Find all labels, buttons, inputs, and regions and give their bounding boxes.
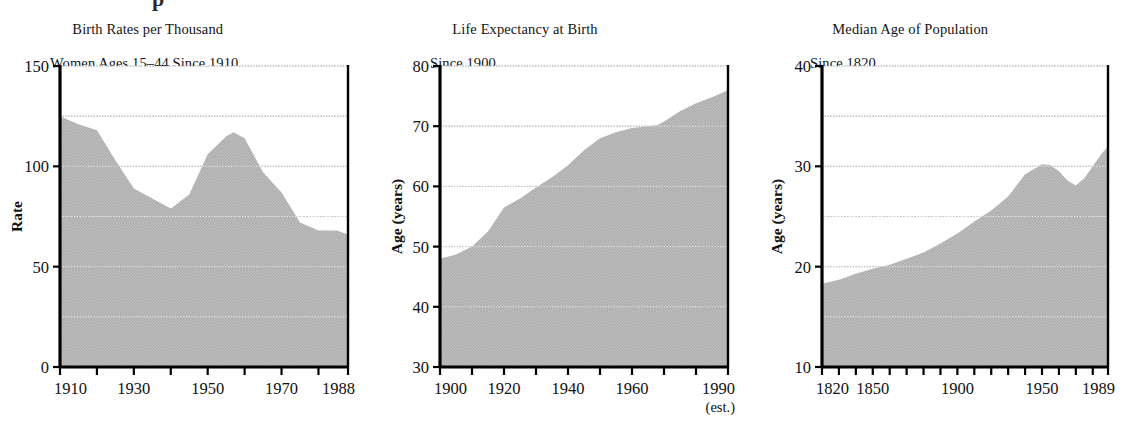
x-tick-label: 1989 bbox=[1082, 379, 1115, 398]
chart-panel-life-expectancy: Life Expectancy at Birth Since 1900 3040… bbox=[380, 0, 760, 424]
chart-svg-median-age: 1020304018201850190019501989Age (years) bbox=[760, 0, 1140, 424]
chart-svg-life-expectancy: 30405060708019001920194019601990Age (yea… bbox=[380, 0, 760, 424]
x-tick-label: 1990 bbox=[702, 379, 735, 398]
x-tick-label: 1820 bbox=[816, 379, 849, 398]
y-tick-label: 20 bbox=[795, 258, 812, 277]
y-tick-label: 50 bbox=[33, 258, 50, 277]
y-tick-label: 30 bbox=[413, 358, 430, 377]
x-axis-note: (est.) bbox=[706, 399, 736, 416]
x-tick-label: 1970 bbox=[265, 379, 298, 398]
y-tick-label: 30 bbox=[795, 157, 812, 176]
x-tick-label: 1900 bbox=[941, 379, 974, 398]
x-tick-label: 1850 bbox=[856, 379, 889, 398]
y-tick-label: 60 bbox=[413, 177, 430, 196]
chart-panel-birth-rates: Birth Rates per Thousand Women Ages 15–4… bbox=[0, 0, 380, 424]
x-tick-label: 1920 bbox=[488, 379, 521, 398]
y-tick-label: 100 bbox=[24, 157, 49, 176]
y-tick-label: 50 bbox=[413, 238, 430, 257]
x-tick-label: 1950 bbox=[191, 379, 224, 398]
x-tick-label: 1930 bbox=[117, 379, 150, 398]
y-tick-label: 80 bbox=[413, 57, 430, 76]
figure-sheet: p Birth Rates per Thousand Women Ages 15… bbox=[0, 0, 1140, 424]
y-tick-label: 70 bbox=[413, 117, 430, 136]
y-tick-label: 10 bbox=[795, 358, 812, 377]
chart-svg-birth-rates: 05010015019101930195019701988Rate bbox=[0, 0, 380, 424]
x-tick-label: 1900 bbox=[434, 379, 467, 398]
y-axis-title: Age (years) bbox=[388, 179, 406, 254]
y-tick-label: 40 bbox=[413, 298, 430, 317]
y-axis-title: Age (years) bbox=[768, 179, 786, 254]
x-tick-label: 1940 bbox=[552, 379, 585, 398]
y-tick-label: 0 bbox=[41, 358, 49, 377]
y-axis-title: Rate bbox=[8, 201, 25, 232]
chart-panel-median-age: Median Age of Population Since 1820 1020… bbox=[760, 0, 1140, 424]
x-tick-label: 1988 bbox=[322, 379, 355, 398]
x-tick-label: 1910 bbox=[54, 379, 87, 398]
y-tick-label: 40 bbox=[795, 57, 812, 76]
y-tick-label: 150 bbox=[24, 57, 49, 76]
x-tick-label: 1950 bbox=[1026, 379, 1059, 398]
x-tick-label: 1960 bbox=[616, 379, 649, 398]
